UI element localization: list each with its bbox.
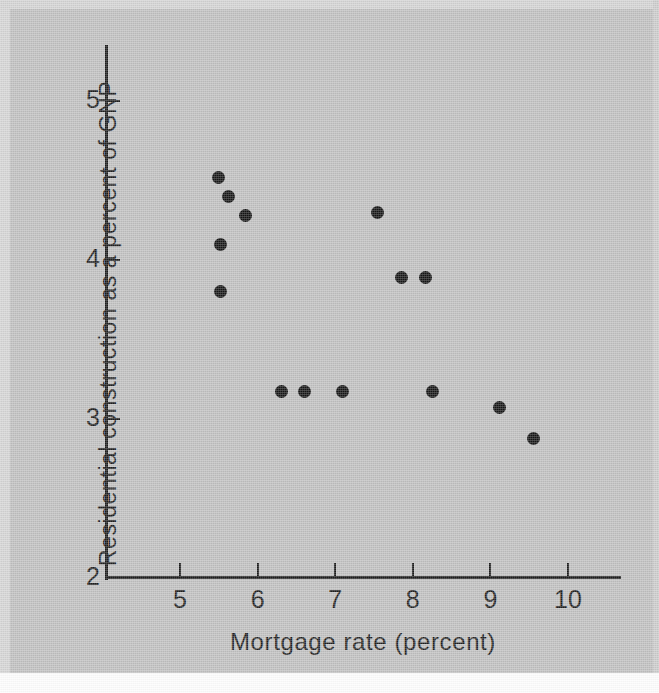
data-point [419,271,432,284]
x-tick-label-5: 5 [150,585,210,614]
data-point [395,271,408,284]
x-tick-9 [489,563,491,577]
y-axis-label: Residential construction as a percent of… [95,64,122,584]
scatter-plot-figure: 56789102345 Residential construction as … [0,0,659,693]
data-point [239,209,252,222]
data-point [493,401,506,414]
data-point [212,171,225,184]
x-tick-7 [334,563,336,577]
x-tick-label-7: 7 [305,585,365,614]
data-point [222,190,235,203]
x-tick-label-6: 6 [228,585,288,614]
page-margin-bottom [0,673,659,693]
data-point [371,206,384,219]
x-tick-label-9: 9 [460,585,520,614]
data-point [275,385,288,398]
x-tick-10 [567,563,569,577]
x-axis-line [105,576,621,579]
x-axis-label: Mortgage rate (percent) [105,628,621,656]
x-tick-label-8: 8 [383,585,443,614]
x-tick-label-10: 10 [538,585,598,614]
data-point [214,238,227,251]
data-point [527,432,540,445]
data-point [214,285,227,298]
x-tick-6 [257,563,259,577]
data-point [298,385,311,398]
x-tick-8 [412,563,414,577]
data-point [336,385,349,398]
data-point [426,385,439,398]
x-tick-5 [179,563,181,577]
